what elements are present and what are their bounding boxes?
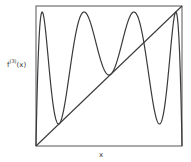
plot-area <box>0 0 191 162</box>
identity-line <box>36 6 182 146</box>
x-axis-label: x <box>99 151 103 159</box>
y-label-superscript: (3) <box>9 58 16 64</box>
y-label-argument: (x) <box>17 61 27 69</box>
y-axis-label: f(3)(x) <box>7 59 26 69</box>
f3-curve <box>36 12 182 146</box>
